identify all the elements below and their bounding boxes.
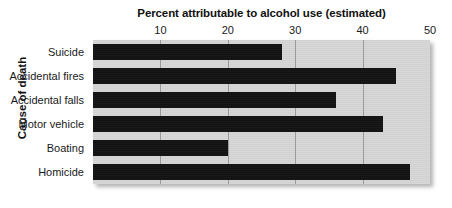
y-axis-tick-label: Motor vehicle	[19, 118, 84, 130]
x-axis-tick-labels: 1020304050	[0, 24, 452, 38]
x-axis-tick-label: 10	[154, 24, 166, 36]
plot-area	[93, 40, 430, 184]
x-axis-tick-label: 20	[222, 24, 234, 36]
y-axis-tick-label: Homicide	[38, 166, 84, 178]
gridline	[228, 40, 229, 184]
x-axis-tick-label: 40	[356, 24, 368, 36]
y-axis-tick-label: Accidental falls	[11, 94, 84, 106]
gridline	[295, 40, 296, 184]
x-axis-tick-label: 30	[289, 24, 301, 36]
y-axis-tick-labels: SuicideAccidental firesAccidental fallsM…	[0, 40, 89, 184]
y-axis-tick-label: Accidental fires	[9, 70, 84, 82]
bar	[93, 68, 396, 84]
scan-texture-overlay	[93, 40, 430, 184]
bar	[93, 140, 228, 156]
y-axis-tick-label: Suicide	[48, 46, 84, 58]
bar	[93, 92, 336, 108]
gridline	[160, 40, 161, 184]
bar	[93, 164, 410, 180]
chart-figure: Percent attributable to alcohol use (est…	[0, 0, 452, 208]
bar	[93, 116, 383, 132]
bar	[93, 44, 282, 60]
chart-title: Percent attributable to alcohol use (est…	[93, 7, 430, 19]
gridline	[363, 40, 364, 184]
x-axis-tick-label: 50	[424, 24, 436, 36]
y-axis-tick-label: Boating	[47, 142, 84, 154]
